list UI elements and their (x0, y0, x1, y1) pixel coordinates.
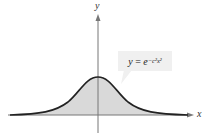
equation-equals: = (133, 56, 144, 67)
y-axis-label: y (95, 1, 99, 11)
callout-pointer (121, 70, 132, 84)
x-axis-label: x (197, 109, 201, 119)
x-axis-arrow-icon (187, 113, 194, 118)
equation-exponent: −c²x² (148, 57, 162, 64)
equation-label: y = e −c²x² (118, 51, 172, 71)
y-axis-arrow-icon (96, 14, 101, 21)
gaussian-plot (0, 0, 206, 139)
